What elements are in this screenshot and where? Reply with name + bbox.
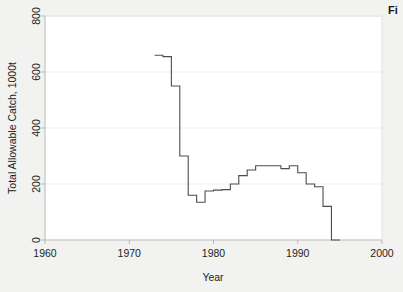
tac-line-chart: 0200400600800 19601970198019902000 Year … — [0, 0, 403, 292]
y-tick-label: 400 — [30, 119, 42, 137]
x-tick-label: 1960 — [33, 247, 57, 259]
y-tick-label: 800 — [30, 7, 42, 25]
figure-corner-label: Fi — [388, 4, 403, 16]
x-tick-label: 1970 — [118, 247, 142, 259]
y-tick-label: 600 — [30, 63, 42, 81]
x-tick-label: 1990 — [286, 247, 310, 259]
x-tick-label: 1980 — [202, 247, 226, 259]
x-axis-title: Year — [202, 271, 224, 283]
x-tick-label: 2000 — [370, 247, 394, 259]
y-tick-label: 0 — [30, 237, 42, 243]
y-axis-title: Total Allowable Catch, 1000t — [6, 62, 18, 194]
y-tick-label: 200 — [30, 175, 42, 193]
figure-root: 0200400600800 19601970198019902000 Year … — [0, 0, 403, 292]
